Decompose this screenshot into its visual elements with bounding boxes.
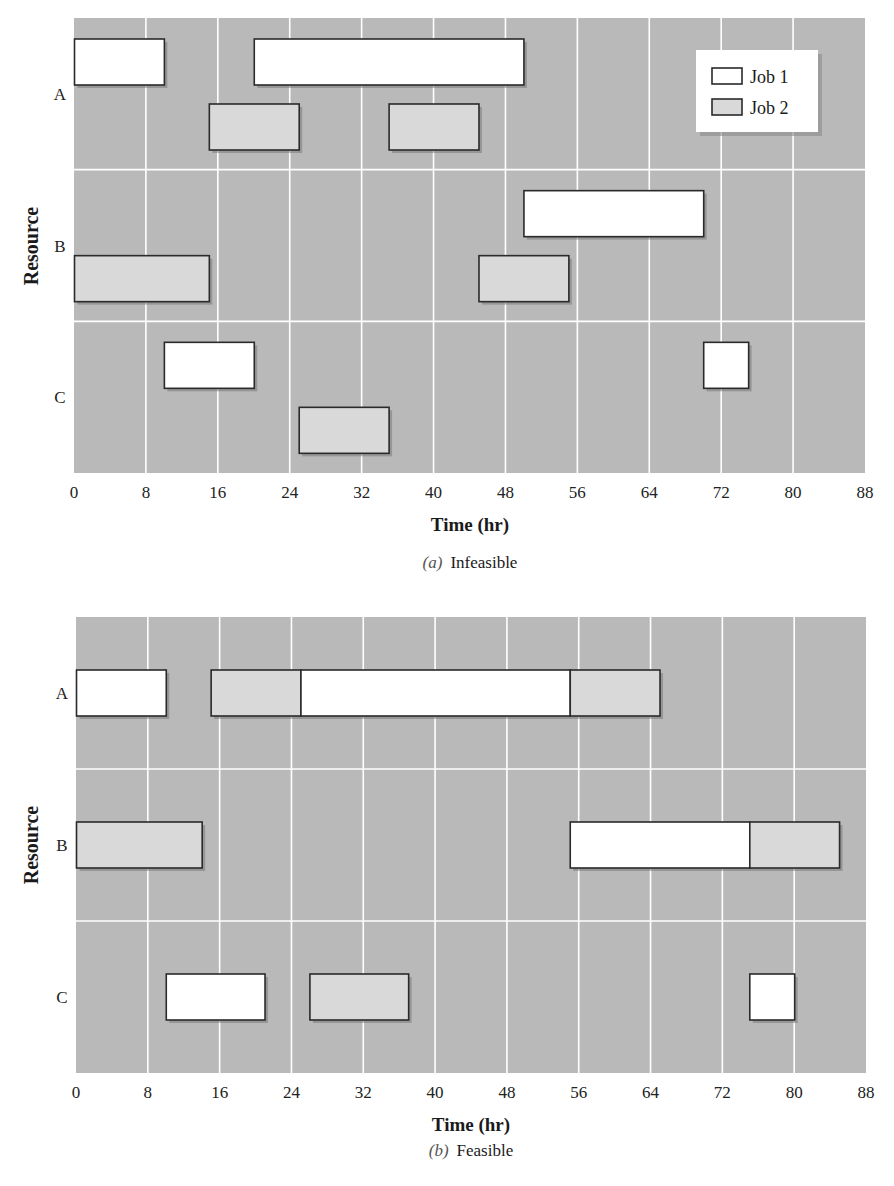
x-tick-label: 16	[211, 1083, 228, 1102]
resource-label-c: C	[54, 388, 65, 407]
task-bar-job2-resource-a	[389, 104, 479, 150]
legend-label-job2: Job 2	[750, 98, 789, 118]
legend-label-job1: Job 1	[750, 67, 789, 87]
caption-letter: (a)	[423, 553, 443, 572]
gantt-figure: 0816243240485664728088 ABC Resource Time…	[0, 0, 894, 1186]
x-tick-label: 32	[353, 483, 370, 502]
task-bar-job2-resource-c	[310, 974, 409, 1020]
resource-labels: ABC	[54, 85, 67, 407]
x-tick-label: 56	[570, 1083, 587, 1102]
x-tick-label: 16	[209, 483, 226, 502]
x-tick-label: 0	[72, 1083, 81, 1102]
x-tick-label: 48	[497, 483, 514, 502]
resource-label-b: B	[56, 836, 67, 855]
y-axis-title: Resource	[20, 806, 42, 885]
chart-panel-infeasible: 0816243240485664728088 ABC Resource Time…	[20, 18, 874, 572]
x-tick-label: 80	[785, 483, 802, 502]
x-axis-title: Time (hr)	[431, 514, 509, 536]
x-tick-label: 64	[642, 1083, 660, 1102]
y-axis-title: Resource	[20, 207, 42, 286]
x-tick-label: 56	[569, 483, 586, 502]
resource-label-b: B	[54, 237, 65, 256]
task-bar-job1-resource-c	[750, 974, 795, 1020]
x-tick-label: 80	[786, 1083, 803, 1102]
task-bar-job1-resource-a	[254, 39, 524, 85]
task-bar-job2-resource-b	[75, 256, 210, 302]
x-tick-label: 24	[281, 483, 299, 502]
caption-letter: (b)	[429, 1141, 449, 1160]
x-tick-labels: 0816243240485664728088	[72, 1083, 875, 1102]
task-bar-job1-resource-c	[164, 342, 254, 388]
panel-caption: (a) Infeasible	[423, 553, 518, 572]
x-tick-label: 8	[142, 483, 151, 502]
task-bar-job2-resource-b	[77, 822, 203, 868]
x-tick-label: 48	[498, 1083, 515, 1102]
resource-label-a: A	[54, 85, 67, 104]
x-tick-label: 32	[355, 1083, 372, 1102]
task-bar-job2-resource-b	[479, 256, 569, 302]
x-tick-label: 88	[858, 1083, 875, 1102]
task-bar-job1-resource-c	[166, 974, 265, 1020]
task-bar-job1-resource-b	[524, 191, 704, 237]
x-tick-label: 40	[425, 483, 442, 502]
x-tick-label: 40	[427, 1083, 444, 1102]
task-bar-job2-resource-a	[211, 670, 301, 716]
chart-panel-feasible: 0816243240485664728088 ABC Resource Time…	[20, 617, 875, 1160]
x-tick-label: 8	[144, 1083, 153, 1102]
task-bar-job2-resource-a	[570, 670, 660, 716]
resource-label-a: A	[56, 684, 69, 703]
caption-text: Feasible	[457, 1141, 514, 1160]
task-bar-job1-resource-a	[77, 670, 167, 716]
resource-label-c: C	[56, 988, 67, 1007]
x-tick-labels: 0816243240485664728088	[70, 483, 874, 502]
task-bar-job1-resource-a	[301, 670, 570, 716]
task-bar-job1-resource-a	[75, 39, 165, 85]
legend-box	[696, 50, 818, 132]
legend: Job 1 Job 2	[696, 50, 822, 136]
x-tick-label: 24	[283, 1083, 301, 1102]
legend-swatch-job2	[712, 99, 742, 115]
x-tick-label: 0	[70, 483, 79, 502]
task-bar-job2-resource-a	[209, 104, 299, 150]
task-bar-job2-resource-b	[750, 822, 840, 868]
caption-text: Infeasible	[450, 553, 517, 572]
x-tick-label: 72	[714, 1083, 731, 1102]
resource-labels: ABC	[56, 684, 69, 1007]
panel-caption: (b) Feasible	[429, 1141, 513, 1160]
legend-swatch-job1	[712, 68, 742, 84]
task-bar-job2-resource-c	[299, 407, 389, 453]
x-tick-label: 88	[857, 483, 874, 502]
x-axis-title: Time (hr)	[432, 1114, 510, 1136]
task-bar-job1-resource-c	[704, 342, 749, 388]
x-tick-label: 72	[713, 483, 730, 502]
task-bar-job1-resource-b	[570, 822, 750, 868]
x-tick-label: 64	[641, 483, 659, 502]
